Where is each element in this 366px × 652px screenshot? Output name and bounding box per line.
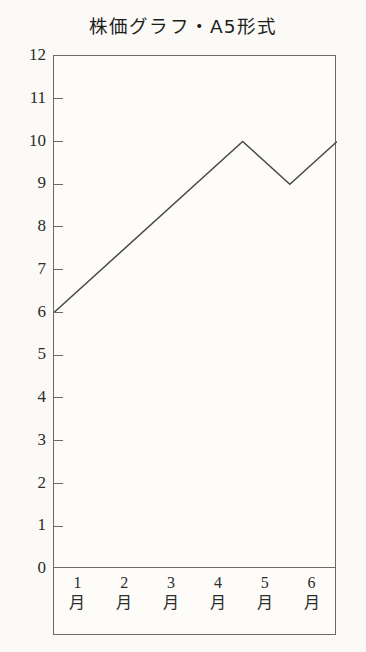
x-tick-label: 6月 xyxy=(288,568,335,613)
y-tick-label: 11 xyxy=(0,89,46,106)
data-line-series xyxy=(54,56,337,569)
plot-area-frame xyxy=(53,55,336,568)
x-tick-label-number: 1 xyxy=(54,573,101,593)
y-tick-mark xyxy=(54,312,63,313)
x-tick-label-number: 4 xyxy=(194,573,241,593)
y-tick-mark xyxy=(54,141,63,142)
x-tick-label-number: 2 xyxy=(101,573,148,593)
x-tick-label: 1月 xyxy=(54,568,101,613)
y-tick-label: 7 xyxy=(0,260,46,277)
x-tick-label-number: 5 xyxy=(241,573,288,593)
y-tick-label: 0 xyxy=(0,559,46,576)
x-tick-label-unit: 月 xyxy=(101,593,148,613)
y-tick-label: 8 xyxy=(0,217,46,234)
y-axis-label-group: 1211109876543210 xyxy=(0,55,46,568)
y-tick-label: 4 xyxy=(0,388,46,405)
y-tick-label: 10 xyxy=(0,132,46,149)
y-tick-label: 2 xyxy=(0,474,46,491)
x-tick-label-unit: 月 xyxy=(194,593,241,613)
y-tick-mark xyxy=(54,184,63,185)
y-tick-label: 6 xyxy=(0,303,46,320)
y-tick-label: 9 xyxy=(0,174,46,191)
y-tick-mark xyxy=(54,483,63,484)
x-tick-label-unit: 月 xyxy=(288,593,335,613)
x-tick-label-unit: 月 xyxy=(148,593,195,613)
x-tick-label: 2月 xyxy=(101,568,148,613)
x-tick-label-number: 6 xyxy=(288,573,335,593)
stock-price-chart: 株価グラフ・A5形式 1211109876543210 1月2月3月4月5月6月 xyxy=(0,0,366,652)
y-tick-label: 5 xyxy=(0,345,46,362)
x-tick-label: 3月 xyxy=(148,568,195,613)
y-tick-mark xyxy=(54,397,63,398)
x-tick-label-unit: 月 xyxy=(54,593,101,613)
x-tick-label: 4月 xyxy=(194,568,241,613)
y-tick-mark xyxy=(54,98,63,99)
y-tick-label: 1 xyxy=(0,516,46,533)
x-tick-label-number: 3 xyxy=(148,573,195,593)
y-tick-mark xyxy=(54,355,63,356)
x-tick-label-unit: 月 xyxy=(241,593,288,613)
stock-price-line xyxy=(54,142,337,313)
chart-title: 株価グラフ・A5形式 xyxy=(0,12,366,38)
y-tick-mark xyxy=(54,269,63,270)
y-tick-mark xyxy=(54,526,63,527)
x-axis-label-group: 1月2月3月4月5月6月 xyxy=(53,568,336,635)
y-tick-label: 3 xyxy=(0,431,46,448)
y-tick-mark xyxy=(54,226,63,227)
x-tick-label: 5月 xyxy=(241,568,288,613)
y-tick-label: 12 xyxy=(0,46,46,63)
y-tick-mark xyxy=(54,440,63,441)
